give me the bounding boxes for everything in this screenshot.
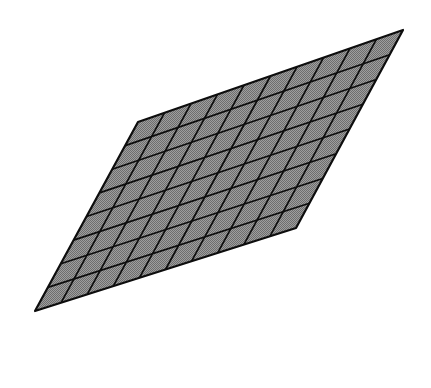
figure-canvas (0, 0, 431, 388)
mesh-diagram (0, 0, 431, 388)
